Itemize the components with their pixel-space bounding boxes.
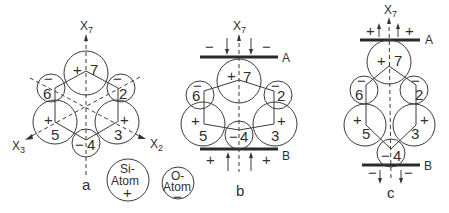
x2-label: X2 [150,137,163,153]
atom-6-number: 6 [355,86,363,103]
plate-a-label: A [425,33,433,47]
down-arrow-icon [399,178,403,184]
x2-arrow-icon [138,134,146,139]
atom-7-number: 7 [394,52,402,69]
plate-a-sign: + [366,22,375,39]
atom-4-sign: − [75,136,84,153]
panel-c: X7 A + + B − − + 7 − 6 − 2 [344,3,435,201]
atom-6-number: 6 [192,87,200,104]
plate-b-sign: − [404,164,413,181]
o-atom-sign: − [173,188,182,205]
panel-b-label: b [236,182,244,199]
atom-7-sign: + [377,52,386,69]
x7-label: X7 [384,3,397,19]
atom-2-number: 2 [119,85,127,102]
si-atom-sign: + [123,184,132,201]
atom-3-sign: + [420,111,429,128]
x3-label: X3 [12,139,25,155]
legend-si-atom: Si- Atom + [107,159,149,201]
atom-7-sign: + [227,67,236,84]
plate-a-label: A [282,51,290,65]
atom-7-number: 7 [90,61,98,78]
atom-3-number: 3 [114,126,122,143]
plate-b-sign: − [368,164,377,181]
plate-a-sign: + [405,22,414,39]
plate-b-sign: + [262,151,271,168]
atom-4-number: 4 [393,147,401,164]
atom-5-number: 5 [362,125,370,142]
plate-b-label: B [282,149,290,163]
x7-label: X7 [233,19,246,35]
x7-arrow-icon [237,34,241,41]
up-arrow-icon [377,23,381,29]
atom-4-sign: − [229,128,238,145]
up-arrow-icon [226,152,230,158]
panel-a-label: a [82,176,91,193]
quartz-piezo-diagram: X7 X3 X2 + 7 − 6 − 2 + 5 + 3 − 4 a Si- A… [0,0,449,213]
x7-arrow-icon [387,17,391,24]
atom-2-number: 2 [277,87,285,104]
atom-2-number: 2 [415,86,423,103]
x3-arrow-icon [25,134,33,140]
atom-3-number: 3 [411,125,419,142]
atom-7-number: 7 [243,68,251,85]
up-arrow-icon [396,23,400,29]
atom-6-number: 6 [43,85,51,102]
atom-4-number: 4 [87,136,95,153]
panel-a: X7 X3 X2 + 7 − 6 − 2 + 5 + 3 − 4 a [12,19,163,193]
atom-4-number: 4 [240,128,248,145]
down-arrow-icon [378,178,382,184]
up-arrow-icon [249,152,253,158]
panel-c-label: c [387,184,395,201]
atom-3-number: 3 [271,127,279,144]
down-arrow-icon [225,49,229,55]
atom-7-sign: + [73,61,82,78]
plate-b-sign: + [206,151,215,168]
atom-4-sign: − [381,147,390,164]
atom-5-sign: + [353,111,362,128]
x7-arrow-icon [84,34,88,41]
plate-a-sign: − [205,38,214,55]
down-arrow-icon [249,49,253,55]
atom-7 [367,40,411,84]
atom-5-number: 5 [51,126,59,143]
plate-b-label: B [424,159,432,173]
plate-a-sign: − [262,38,271,55]
legend-o-atom: O- Atom − [162,167,194,205]
panel-b: X7 A − − B + + + 7 − 6 − 2 [181,19,297,199]
atom-5-number: 5 [199,127,207,144]
x7-label: X7 [80,19,93,35]
bond-lines [366,66,416,85]
